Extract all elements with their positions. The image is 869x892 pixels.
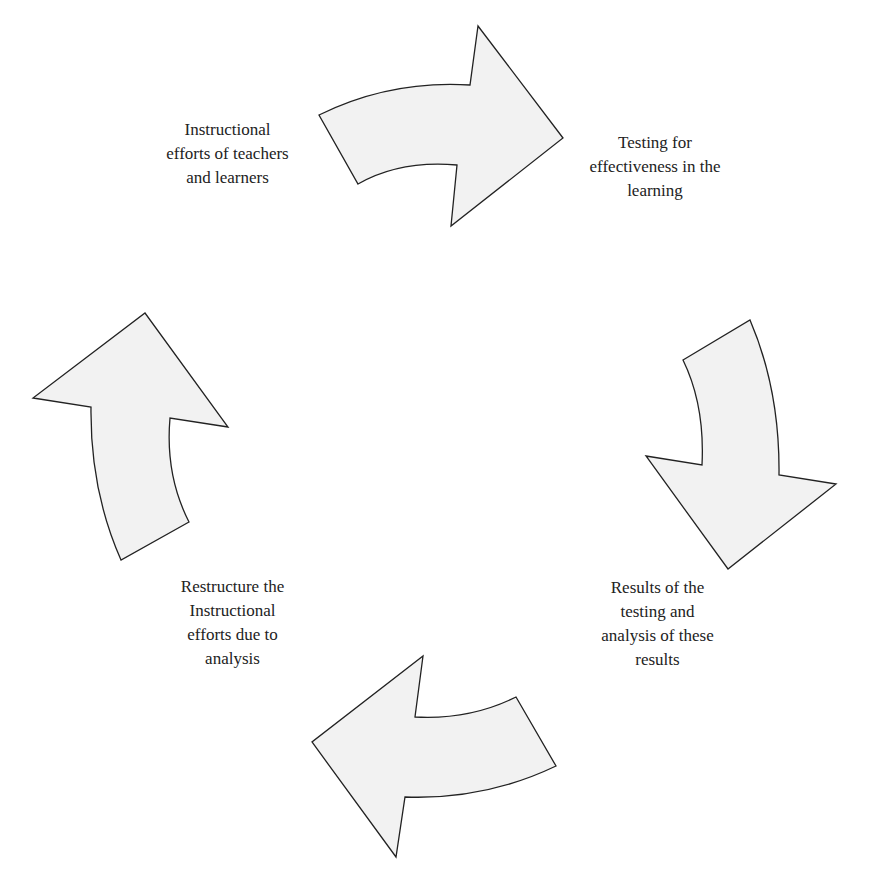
step-label-restructure: Restructure the Instructional efforts du… [140,575,325,671]
curved-arrow-left-icon [312,656,556,857]
step-label-instructional-efforts: Instructional efforts of teachers and le… [135,118,320,190]
curved-arrow-down-icon [646,320,836,569]
curved-arrow-right-icon [319,26,563,226]
curved-arrow-up-icon [33,313,228,560]
step-label-results: Results of the testing and analysis of t… [565,576,750,672]
cycle-diagram: Instructional efforts of teachers and le… [0,0,869,892]
step-label-testing: Testing for effectiveness in the learnin… [565,131,745,203]
